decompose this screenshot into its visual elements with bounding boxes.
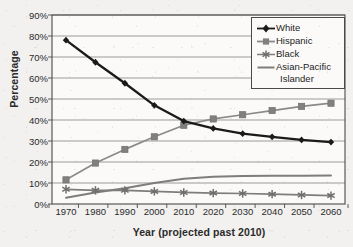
data-point-marker xyxy=(240,112,246,118)
data-point-marker xyxy=(328,100,334,106)
diamond-marker-icon xyxy=(256,21,276,34)
legend-item-asian-pacific-islander: Asian-Pacific xyxy=(252,60,344,73)
asterisk-marker-icon xyxy=(256,47,276,60)
data-point-marker xyxy=(151,134,157,140)
legend-label-white: White xyxy=(276,21,300,34)
data-point-marker xyxy=(298,103,304,109)
chart-figure: Percentage 0%10%20%30%40%50%60%70%80%90%… xyxy=(0,0,353,247)
legend-label-asian-pacific: Asian-Pacific xyxy=(276,60,331,73)
legend-item-hispanic: Hispanic xyxy=(252,34,344,47)
data-point-marker xyxy=(63,177,69,183)
legend-label-islander-continuation: Islander xyxy=(252,73,344,85)
line-marker-icon xyxy=(256,60,276,73)
legend-label-black: Black xyxy=(276,47,299,60)
legend-item-white: White xyxy=(252,21,344,34)
data-point-marker xyxy=(269,107,275,113)
legend-label-hispanic: Hispanic xyxy=(276,34,312,47)
data-point-marker xyxy=(92,160,98,166)
square-marker-icon xyxy=(256,34,276,47)
data-point-marker xyxy=(122,146,128,152)
chart-legend: White Hispanic xyxy=(251,17,345,89)
legend-item-black: Black xyxy=(252,47,344,60)
data-point-marker xyxy=(210,116,216,122)
